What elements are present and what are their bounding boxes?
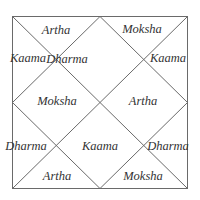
house-5-label: Dharma bbox=[5, 139, 47, 154]
house-6-label: Artha bbox=[43, 169, 71, 184]
house-4-label: Moksha bbox=[37, 94, 77, 109]
house-3-label: Kaama bbox=[10, 51, 46, 66]
house-12-label: Moksha bbox=[122, 22, 162, 37]
house-10-label: Artha bbox=[129, 94, 157, 109]
house-9-label: Dharma bbox=[147, 139, 189, 154]
house-1-label: Dharma bbox=[46, 52, 88, 67]
house-2-label: Artha bbox=[42, 23, 70, 38]
chart-frame bbox=[0, 0, 200, 200]
house-7-label: Kaama bbox=[82, 139, 118, 154]
house-11-label: Kaama bbox=[150, 51, 186, 66]
house-8-label: Moksha bbox=[123, 169, 163, 184]
